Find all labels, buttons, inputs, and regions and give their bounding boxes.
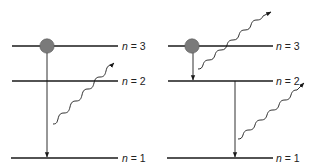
right-panel: n = 3 n = 2 n = 1 xyxy=(167,12,304,164)
electron-icon xyxy=(40,39,54,53)
level-label-n1: n = 1 xyxy=(122,152,146,164)
level-label-n2: n = 2 xyxy=(122,75,146,87)
energy-level-diagram: n = 3 n = 2 n = 1 n = 3 n = 2 n = 1 xyxy=(0,0,315,168)
electron-icon xyxy=(185,39,199,53)
level-label-n3: n = 3 xyxy=(276,40,300,52)
left-panel: n = 3 n = 2 n = 1 xyxy=(11,39,146,164)
photon-wave-icon xyxy=(238,83,304,139)
photon-wave-icon xyxy=(53,63,114,124)
level-label-n3: n = 3 xyxy=(122,40,146,52)
level-label-n1: n = 1 xyxy=(276,152,300,164)
photon-wave-icon xyxy=(198,12,271,69)
level-label-n2: n = 2 xyxy=(276,75,300,87)
